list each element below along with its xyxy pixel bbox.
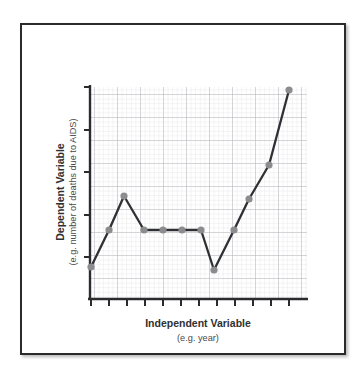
data-point <box>230 226 237 233</box>
figure-card: Dependent Variable (e.g. number of death… <box>20 23 346 355</box>
data-point <box>120 192 127 199</box>
data-point <box>140 226 147 233</box>
data-point <box>87 263 94 270</box>
data-point <box>159 226 166 233</box>
y-axis-subtitle: (e.g. number of deaths due to AIDS) <box>68 118 78 265</box>
chart-svg: Dependent Variable (e.g. number of death… <box>2 2 363 376</box>
x-axis-title: Independent Variable <box>145 317 251 329</box>
data-point <box>178 226 185 233</box>
data-point <box>265 161 272 168</box>
data-point <box>197 226 204 233</box>
data-point <box>245 195 252 202</box>
data-point <box>105 226 112 233</box>
data-point <box>285 86 292 93</box>
data-point <box>210 266 217 273</box>
x-axis-subtitle: (e.g. year) <box>177 333 219 343</box>
line-chart: Dependent Variable (e.g. number of death… <box>22 25 348 357</box>
y-axis-title: Dependent Variable <box>54 143 66 241</box>
